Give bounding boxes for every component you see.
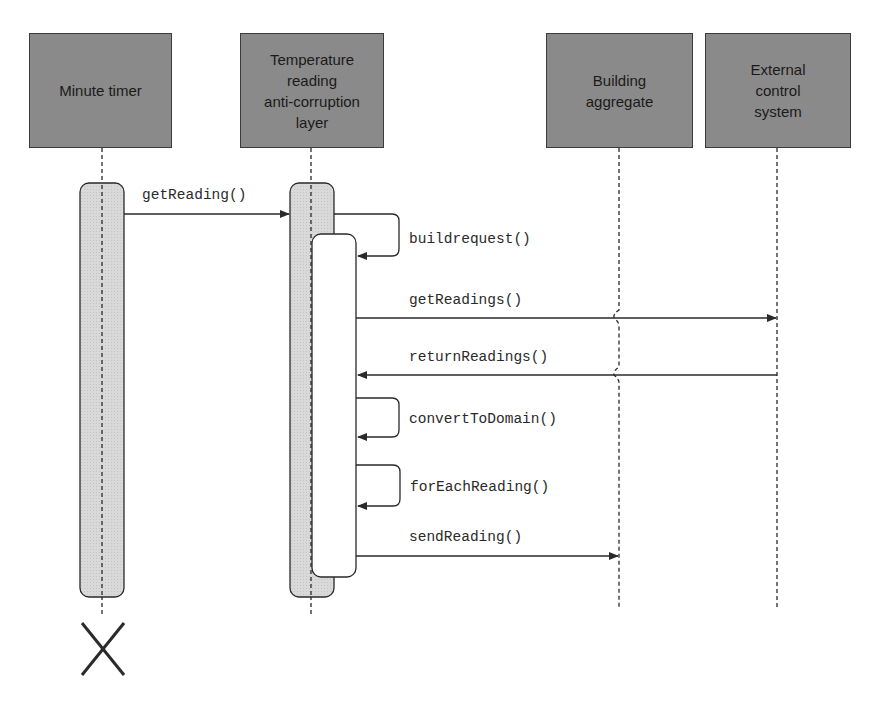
lifeline-building-aggregate <box>614 148 619 608</box>
nested-activation-bar-anti-corruption-layer <box>312 234 356 577</box>
message-label: forEachReading() <box>410 479 549 495</box>
message-for-each-reading: forEachReading() <box>356 465 549 506</box>
message-get-reading: getReading() <box>124 187 289 214</box>
message-send-reading: sendReading() <box>356 529 618 556</box>
message-return-readings: returnReadings() <box>358 349 777 375</box>
message-label: buildrequest() <box>409 231 531 247</box>
message-label: getReading() <box>142 187 246 203</box>
destroy-marker-x-icon <box>82 623 124 675</box>
message-label: sendReading() <box>409 529 522 545</box>
message-get-readings: getReadings() <box>356 292 776 318</box>
message-label: returnReadings() <box>409 349 548 365</box>
message-convert-to-domain: convertToDomain() <box>356 398 557 437</box>
message-label: getReadings() <box>409 292 522 308</box>
message-build-request: buildrequest() <box>334 214 531 256</box>
sequence-diagram-canvas: getReading() buildrequest() getReadings(… <box>0 0 885 706</box>
message-label: convertToDomain() <box>409 411 557 427</box>
